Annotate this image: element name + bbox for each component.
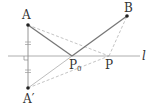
label-b: B [124,1,133,15]
segment-a-p0 [28,25,72,56]
label-p: P [105,58,113,72]
segment-aprime-p0 [28,56,72,88]
label-p0: P0 [69,58,82,73]
reflection-diagram: A A′ B P0 P l [0,0,153,109]
label-line-l: l [142,49,146,63]
point-aprime [26,86,30,90]
label-a: A [21,8,31,22]
label-aprime: A′ [22,92,35,106]
dashed-a-p [28,25,109,56]
point-a [26,23,30,27]
right-angle-mark [24,56,28,60]
segment-p0-b [72,16,127,56]
